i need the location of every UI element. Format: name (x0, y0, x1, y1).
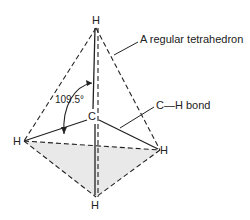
bond-leader-line (120, 107, 154, 128)
tetrahedron-leader-line (114, 42, 138, 55)
bond-angle-label: 109.5° (55, 95, 84, 105)
atom-top-h: H (92, 15, 100, 26)
shaded-base-face (24, 141, 160, 197)
arrow-head-icon (86, 80, 92, 86)
atom-left-h: H (13, 136, 21, 147)
tetrahedron-callout: A regular tetrahedron (140, 34, 243, 45)
atom-right-h: H (160, 145, 168, 156)
arrow-head-icon (61, 127, 67, 134)
atom-c: C (88, 111, 96, 122)
bond-callout: C—H bond (156, 100, 210, 111)
atom-bottom-h: H (91, 200, 99, 211)
